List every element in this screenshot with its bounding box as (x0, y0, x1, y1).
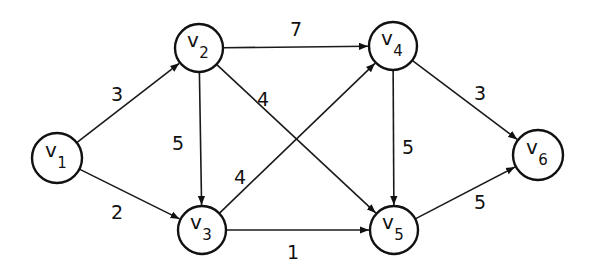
node-subscript: 1 (57, 154, 67, 172)
edge-v4-v6 (412, 60, 517, 139)
node-label: v (381, 26, 393, 50)
edge-weight-v1-v3: 2 (111, 201, 123, 223)
edge-v1-v2 (77, 63, 179, 142)
edge-weight-v3-v5: 1 (287, 241, 299, 263)
node-label: v (526, 135, 538, 159)
edge-v2-v4 (223, 46, 368, 47)
edge-weight-v4-v6: 3 (474, 82, 486, 104)
node-label: v (45, 138, 57, 162)
node-label: v (187, 28, 199, 52)
node-subscript: 2 (199, 44, 209, 62)
edge-weight-v4-v5: 5 (402, 136, 414, 158)
edge-weight-v2-v3: 5 (172, 132, 184, 154)
node-label: v (190, 210, 202, 234)
node-v5: v5 (370, 206, 418, 254)
node-v6: v6 (513, 130, 563, 180)
edge-v1-v3 (79, 169, 179, 219)
edge-weight-v3-v4: 4 (234, 166, 246, 188)
node-v1: v1 (32, 133, 82, 183)
node-subscript: 4 (393, 42, 403, 60)
edge-weight-v2-v4: 7 (290, 18, 302, 40)
edge-v4-v5 (393, 70, 394, 205)
edges-layer (77, 46, 517, 230)
node-v2: v2 (175, 24, 223, 72)
node-label: v (382, 210, 394, 234)
node-subscript: 5 (394, 226, 404, 244)
edge-v5-v6 (415, 167, 515, 219)
edge-weight-v5-v6: 5 (474, 191, 486, 213)
node-subscript: 6 (538, 151, 548, 169)
edge-v2-v3 (199, 72, 201, 205)
node-v4: v4 (369, 22, 417, 70)
graph-svg: v1v2v3v4v5v6 3275441535 (0, 0, 591, 273)
node-v3: v3 (178, 206, 226, 254)
graph-diagram: v1v2v3v4v5v6 3275441535 (0, 0, 591, 273)
edge-weight-v2-v5: 4 (257, 88, 269, 110)
node-subscript: 3 (202, 226, 212, 244)
edge-weight-v1-v2: 3 (111, 83, 123, 105)
